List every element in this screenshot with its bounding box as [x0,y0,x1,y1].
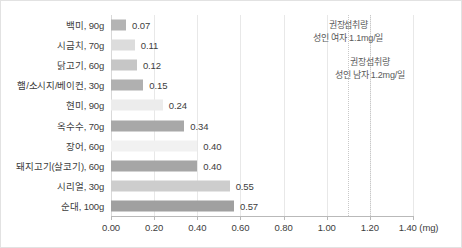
bar [111,40,135,51]
value-label: 0.07 [132,20,150,31]
category-label: 닭고기, 60g [57,58,104,72]
bar [111,120,184,131]
x-tick [111,216,112,220]
x-tick [154,216,155,220]
category-label: 시리얼, 30g [57,179,104,193]
x-axis-line [111,216,413,217]
x-tick [413,216,414,220]
bar-row: 장어, 60g0.40 [111,136,413,156]
bar-row: 현미, 90g0.24 [111,95,413,115]
bar [111,80,143,91]
x-tick-label: 1.00 [318,222,336,233]
bar [111,100,163,111]
category-label: 시금치, 70g [57,38,104,52]
x-tick-label: 0.80 [275,222,293,233]
value-label: 0.34 [190,120,208,131]
category-label: 돼지고기(살코기), 60g [16,159,104,173]
category-label: 현미, 90g [66,98,104,112]
value-label: 0.11 [141,40,158,51]
value-label: 0.24 [169,100,187,111]
value-label: 0.57 [240,200,258,211]
plot-area: 백미, 90g0.07시금치, 70g0.11닭고기, 60g0.12햄/소시지… [111,15,413,216]
value-label: 0.55 [236,180,254,191]
category-label: 장어, 60g [66,139,104,153]
bar [111,20,126,31]
value-label: 0.12 [143,60,161,71]
bar-row: 시리얼, 30g0.55 [111,176,413,196]
x-axis: 0.000.200.400.600.801.001.201.40 (mg) [111,216,413,248]
bar-chart-figure: 백미, 90g0.07시금치, 70g0.11닭고기, 60g0.12햄/소시지… [0,0,462,248]
annotation-detail: 성인 여자 1.1mg/일 [288,32,408,45]
bar-row: 순대, 100g0.57 [111,196,413,216]
value-label: 0.15 [149,80,167,91]
bar [111,140,197,151]
bar [111,200,234,211]
reference-annotation-female: 권장섭취량성인 여자 1.1mg/일 [288,19,408,45]
annotation-title: 권장섭취량 [310,56,430,69]
x-tick-label-with-unit: 1.40 (mg) [399,222,439,233]
value-label: 0.40 [203,160,221,171]
bar [111,60,137,71]
x-tick [284,216,285,220]
x-tick-label: 0.60 [231,222,249,233]
bar [111,160,197,171]
category-label: 백미, 90g [66,18,104,32]
x-tick [370,216,371,220]
x-tick [197,216,198,220]
annotation-title: 권장섭취량 [288,19,408,32]
annotation-detail: 성인 남자 1.2mg/일 [310,69,430,82]
category-label: 순대, 100g [61,199,104,213]
gridline-1.40 [413,15,414,216]
x-tick-label: 0.00 [102,222,120,233]
bar [111,180,230,191]
bar-row: 옥수수, 70g0.34 [111,116,413,136]
x-tick-label: 0.40 [188,222,206,233]
x-tick-label: 0.20 [145,222,163,233]
x-tick [240,216,241,220]
x-tick-label: 1.20 [361,222,379,233]
value-label: 0.40 [203,140,221,151]
reference-annotation-male: 권장섭취량성인 남자 1.2mg/일 [310,56,430,82]
bar-row: 돼지고기(살코기), 60g0.40 [111,156,413,176]
x-tick [327,216,328,220]
category-label: 옥수수, 70g [57,119,104,133]
category-label: 햄/소시지/베이컨, 30g [17,78,104,92]
